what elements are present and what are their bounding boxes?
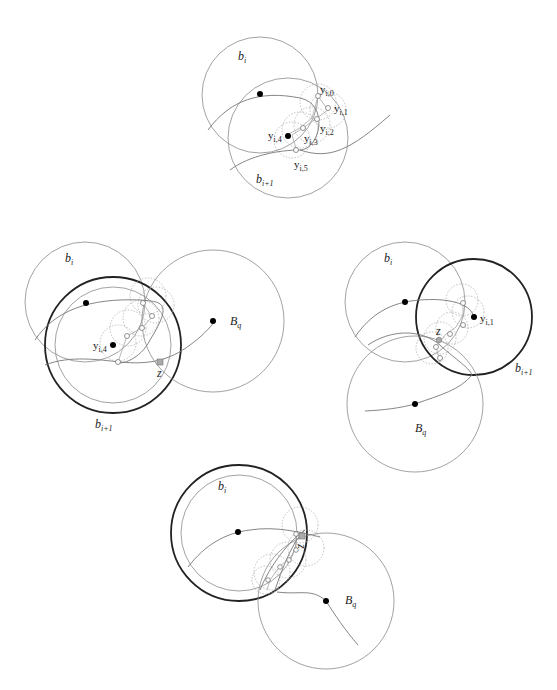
center-B-q [412,401,418,407]
svg-text:yi,5: yi,5 [294,158,308,173]
chain-point [461,323,466,328]
point-z [157,359,163,365]
svg-text:bi+1: bi+1 [95,417,113,433]
center-B-q [323,598,329,604]
chain-point [141,301,146,306]
svg-text:bi+1: bi+1 [515,361,533,377]
point-y-i4 [110,342,116,348]
svg-text:z: z [156,366,162,380]
svg-text:Bq: Bq [345,593,356,609]
path-curve [355,300,474,337]
chain-path [118,303,152,362]
chain-point [287,558,292,563]
svg-text:bi: bi [65,251,73,267]
point-y-i5 [294,148,299,153]
center-dot [83,300,89,306]
svg-text:z: z [435,324,441,338]
path-curve [208,95,390,153]
panel-top: bi bi+1 yi,0 yi,1 yi,2 yi,3 yi,4 yi,5 [202,37,390,198]
panel-bottom: bi Bq z [171,465,394,669]
svg-text:yi,2: yi,2 [320,122,334,137]
small-ball [446,284,478,316]
point-y-i3 [301,126,306,131]
chain-point [125,334,130,339]
point-y-i1 [326,106,331,111]
chain-point [150,314,155,319]
small-ball [100,325,136,361]
svg-text:bi: bi [384,251,392,267]
chain-point [448,332,453,337]
svg-text:yi,1: yi,1 [480,312,494,327]
point-y-i1 [471,314,477,320]
point-y-i4 [285,133,291,139]
ball-covering-diagram: bi bi+1 yi,0 yi,1 yi,2 yi,3 yi,4 yi,5 bi… [0,0,557,690]
path-curve [45,321,215,365]
chain-point [461,301,466,306]
panel-middle-right: bi bi+1 Bq yi,1 z [345,242,533,472]
panel-middle-left: bi bi+1 Bq yi,4 z [25,242,284,433]
chain-point [434,345,439,350]
svg-text:bi+1: bi+1 [256,172,274,188]
center-B-q [210,318,216,324]
center-dot [235,529,241,535]
point-z [436,337,442,343]
svg-text:bi: bi [218,479,226,495]
chain-point [294,532,299,537]
chain-point [140,326,145,331]
svg-text:z: z [295,543,309,549]
chain-point [116,360,121,365]
svg-text:yi,3: yi,3 [304,132,318,147]
center-dot [257,91,263,97]
svg-text:yi,0: yi,0 [320,83,334,98]
point-y-i2 [315,117,320,122]
chain-point [438,356,443,361]
svg-text:yi,4: yi,4 [268,129,282,144]
svg-text:Bq: Bq [230,314,241,330]
point-z [299,533,305,539]
chain-point [266,578,271,583]
svg-text:bi: bi [238,49,246,65]
chain-point [278,565,283,570]
svg-text:yi,1: yi,1 [334,102,348,117]
svg-text:Bq: Bq [415,421,426,437]
center-dot [402,299,408,305]
